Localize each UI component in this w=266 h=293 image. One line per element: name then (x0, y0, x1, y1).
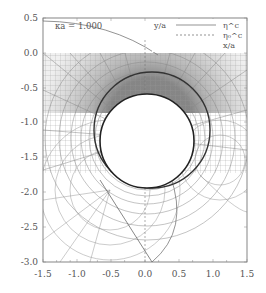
y-tick-label: 0.5 (24, 13, 39, 23)
x-tick-label: -1.0 (68, 269, 86, 279)
x-tick-label: 1.5 (240, 269, 255, 279)
x-tick-label: 0.5 (172, 269, 187, 279)
y-tick-label: -3.0 (21, 257, 39, 267)
y-tick-label: 0.0 (24, 48, 39, 58)
kappa-annotation: κa = 1.000 (55, 21, 102, 31)
chart-canvas: 0.5 0.0 -0.5 -1.0 -1.5 -2.0 -2.5 -3.0 -1… (0, 0, 266, 293)
legend-entry-label: η^c (223, 21, 239, 30)
cylinder-disc (100, 94, 194, 188)
y-tick-label: -2.5 (21, 222, 39, 232)
y-tick-label: -1.0 (21, 117, 39, 127)
legend-entry-label: η₀^c (223, 31, 243, 40)
x-tick-label: -1.5 (34, 269, 52, 279)
legend: y/a η^c η₀^c x/a (152, 19, 246, 52)
x-axis-labels: -1.5 -1.0 -0.5 0.0 0.5 1.0 1.5 (34, 269, 254, 279)
y-axis-labels: 0.5 0.0 -0.5 -1.0 -1.5 -2.0 -2.5 -3.0 (21, 13, 39, 267)
y-tick-label: -1.5 (21, 152, 39, 162)
legend-title: y/a (153, 21, 166, 30)
y-tick-label: -2.0 (21, 187, 39, 197)
legend-entry-label: x/a (223, 41, 235, 50)
y-tick-label: -0.5 (21, 83, 39, 93)
plot-area (40, 21, 260, 262)
x-tick-label: 1.0 (206, 269, 221, 279)
x-tick-label: -0.5 (102, 269, 120, 279)
x-tick-label: 0.0 (138, 269, 153, 279)
